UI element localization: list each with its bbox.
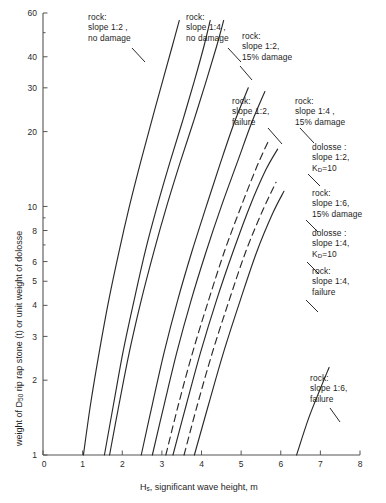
leader-line-0 [132,48,145,62]
annotation-rock-1-2-15-damage: rock: slope 1:2, 15% damage [242,31,292,62]
x-tick-label: 0 [42,459,47,469]
y-tick-label: 10 [28,202,38,212]
y-tick-label: 3 [32,332,37,342]
x-axis-title: Hs, significant wave height, m [140,482,258,492]
y-axis-title-subscript: 50 [17,394,24,401]
x-tick-label: 7 [318,459,323,469]
annotation-rock-1-4-15-damage: rock: slope 1:4 , 15% damage [295,96,345,127]
x-tick-label: 4 [199,459,204,469]
y-tick-label: 8 [32,226,37,236]
x-tick-label: 1 [80,459,85,469]
y-tick-label: 60 [28,8,38,18]
x-axis-title-subscript: s [147,485,150,492]
y-tick-label: 5 [32,276,37,286]
y-tick-label: 30 [28,83,38,93]
leader-line-9 [330,408,340,422]
leader-line-3 [268,128,282,144]
curve-series-0 [83,20,179,455]
curves-group [83,20,329,455]
curve-series-4 [152,91,265,455]
y-tick-label: 40 [28,52,38,62]
x-tick-label: 3 [160,459,165,469]
x-tick-label: 2 [120,459,125,469]
leader-line-1 [228,48,241,62]
annotation-rock-1-4-no-damage: rock: slope 1:4 , no damage [186,12,229,43]
x-tick-label: 8 [358,459,363,469]
curve-series-3 [141,88,248,455]
y-axis-title: weight of D50 rip rap stone (t) or unit … [14,231,24,446]
leader-line-4 [300,128,314,143]
leader-line-5 [308,174,320,186]
annotation-rock-1-2-failure: rock: slope 1:2, failure [232,96,269,127]
annotation-rock-1-4-failure: rock: slope 1:4, failure [312,266,349,297]
x-tick-label: 6 [278,459,283,469]
annotation-rock-1-6-15-damage: rock: slope 1:6, 15% damage [312,188,362,219]
x-tick-label: 5 [239,459,244,469]
curve-series-7 [184,182,276,455]
y-tick-label: 4 [32,300,37,310]
curve-series-2 [110,20,224,455]
annotation-dolosse-1-4-kd10: dolosse : slope 1:4, KD=10 [312,228,349,260]
y-tick-label: 20 [28,127,38,137]
annotation-rock-1-2-no-damage: rock: slope 1:2 , no damage [88,12,131,43]
annotation-tail: =10 [322,163,337,173]
annotation-tail: =10 [322,249,337,259]
y-tick-label: 2 [32,375,37,385]
y-tick-label: 6 [32,257,37,267]
y-tick-label: 1 [32,450,37,460]
curve-series-8 [194,191,284,455]
annotation-rock-1-6-failure: rock: slope 1:6, failure [310,373,347,404]
leader-line-2 [240,66,252,80]
chart-figure: 12345681020304060012345678 weight of D50… [0,0,386,503]
annotation-dolosse-1-2-kd10: dolosse : slope 1:2, KD=10 [312,142,349,174]
leader-line-8 [306,300,318,312]
